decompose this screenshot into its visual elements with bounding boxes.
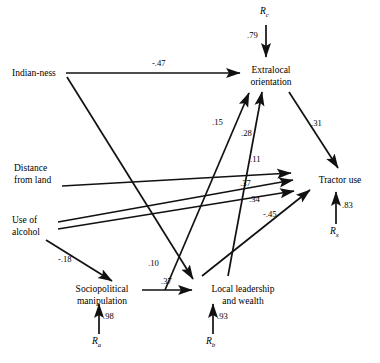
coef-residual-c: .79 — [247, 30, 258, 40]
node-local-leadership-and-wealth-line2: and wealth — [196, 296, 290, 308]
node-sociopolitical-manipulation: Sociopolitical manipulation — [61, 284, 143, 307]
node-indian-ness: Indian-ness — [12, 68, 56, 80]
path-diagram: Indian-ness Distance from land Use of al… — [0, 0, 380, 363]
edge-sociopolitical-to-extralocal — [165, 93, 249, 290]
node-use-of-alcohol-line1: Use of — [12, 215, 40, 227]
residual-label-rc: Rc — [260, 6, 269, 18]
coef-residual-x: .83 — [342, 200, 353, 210]
node-local-leadership-and-wealth-line1: Local leadership — [196, 284, 290, 296]
coef-sociopolitical-to-local-leadership: .37 — [161, 276, 172, 286]
node-tractor-use-line1: Tractor use — [310, 175, 370, 187]
residual-label-rb: Rb — [206, 336, 215, 348]
node-distance-from-land-line2: from land — [14, 175, 51, 187]
node-sociopolitical-manipulation-line1: Sociopolitical — [61, 284, 143, 296]
node-distance-from-land-line1: Distance — [14, 163, 51, 175]
edge-extralocal-to-tractor-use — [289, 92, 338, 168]
node-extralocal-orientation-line2: orientation — [242, 77, 300, 89]
residual-ra-subscript: a — [98, 341, 101, 348]
coef-residual-a: .98 — [103, 311, 114, 321]
coef-residual-b: .93 — [217, 311, 228, 321]
coef-alcohol-to-sociopolitical: -.18 — [58, 254, 72, 264]
node-local-leadership-and-wealth: Local leadership and wealth — [196, 284, 290, 307]
residual-label-rx: Rx — [330, 226, 339, 238]
residual-rc-subscript: c — [266, 11, 269, 18]
coef-sociopolitical-to-extralocal: .15 — [212, 117, 223, 127]
coef-local-leadership-to-tractor-use: -.45 — [263, 209, 277, 219]
coef-indianness-to-local-leadership: .10 — [148, 258, 159, 268]
node-distance-from-land: Distance from land — [14, 163, 51, 186]
node-use-of-alcohol: Use of alcohol — [12, 215, 40, 238]
residual-rb-subscript: b — [212, 341, 215, 348]
node-extralocal-orientation-line1: Extralocal — [242, 65, 300, 77]
edge-alcohol-to-sociopolitical — [46, 240, 112, 281]
node-use-of-alcohol-line2: alcohol — [12, 227, 40, 239]
node-indian-ness-line1: Indian-ness — [12, 68, 56, 78]
coef-alcohol-to-tractor-use-34: .34 — [249, 194, 260, 204]
coef-extralocal-to-tractor-use: .31 — [311, 118, 322, 128]
edge-distance-to-tractor-use — [62, 173, 291, 186]
coef-distance-to-tractor-use: .11 — [250, 154, 260, 164]
node-sociopolitical-manipulation-line2: manipulation — [61, 296, 143, 308]
coef-indianness-to-extralocal: -.47 — [152, 58, 166, 68]
node-tractor-use: Tractor use — [310, 175, 370, 187]
residual-label-ra: Ra — [92, 336, 101, 348]
edge-indianness-to-local-leadership — [67, 77, 193, 279]
coef-local-leadership-to-extralocal: .28 — [241, 128, 252, 138]
node-extralocal-orientation: Extralocal orientation — [242, 65, 300, 88]
residual-rx-subscript: x — [336, 231, 339, 238]
coef-alcohol-to-tractor-use-37: .37 — [240, 178, 251, 188]
